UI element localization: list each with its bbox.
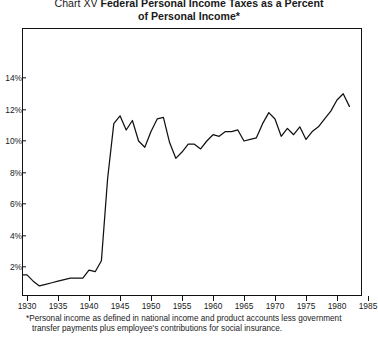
footnote-line-2: transfer payments plus employee's contri… (26, 324, 366, 334)
x-axis-tick-label: 1970 (266, 301, 285, 311)
y-axis-tick-label: 6% (2, 199, 22, 209)
x-axis-tick-label: 1965 (235, 301, 254, 311)
series-polyline (22, 94, 349, 286)
plot-area (22, 28, 362, 296)
y-axis-tick-mark (22, 203, 26, 204)
chart-title-line-1: Chart XV Federal Personal Income Taxes a… (0, 0, 378, 10)
x-axis-tick-label: 1940 (80, 301, 99, 311)
x-axis-tick-label: 1935 (49, 301, 68, 311)
footnote-line-1: *Personal income as defined in national … (26, 314, 341, 323)
y-axis-tick-mark (22, 140, 26, 141)
y-axis-tick-mark (22, 109, 26, 110)
y-axis-tick-mark (22, 77, 26, 78)
y-axis-tick-mark (22, 266, 26, 267)
x-axis-tick-label: 1975 (297, 301, 316, 311)
y-axis: 2%4%6%8%10%12%14% (0, 0, 22, 337)
chart-title-main-line-2: of Personal Income* (0, 10, 378, 23)
income-tax-percent-line-series (22, 28, 362, 296)
y-axis-tick-label: 10% (2, 136, 22, 146)
x-axis-tick-label: 1950 (142, 301, 161, 311)
chart-title: Chart XV Federal Personal Income Taxes a… (0, 0, 378, 22)
y-axis-tick-label: 2% (2, 262, 22, 272)
x-axis-tick-label: 1960 (204, 301, 223, 311)
x-axis-tick-label: 1945 (111, 301, 130, 311)
chart-footnote: *Personal income as defined in national … (26, 314, 366, 334)
y-axis-tick-label: 8% (2, 168, 22, 178)
x-axis-tick-label: 1985 (359, 301, 378, 311)
chart-number-label: Chart XV (55, 0, 98, 9)
x-axis-tick-label: 1930 (18, 301, 37, 311)
y-axis-tick-label: 12% (2, 105, 22, 115)
y-axis-tick-label: 14% (2, 73, 22, 83)
x-axis-tick-label: 1955 (173, 301, 192, 311)
y-axis-tick-mark (22, 235, 26, 236)
y-axis-tick-label: 4% (2, 231, 22, 241)
x-axis-tick-label: 1980 (328, 301, 347, 311)
chart-title-main-line-1: Federal Personal Income Taxes as a Perce… (100, 0, 323, 9)
y-axis-tick-mark (22, 172, 26, 173)
